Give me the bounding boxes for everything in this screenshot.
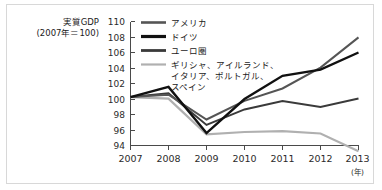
line-chart-svg: 実質GDP (2007年＝100) 110 108 106 104 102 10… <box>0 0 382 190</box>
x-tick-2013: 2013 <box>345 153 369 164</box>
legend-label-germany: ドイツ <box>171 32 198 42</box>
y-tick-110: 110 <box>108 17 125 27</box>
y-tick-108: 108 <box>108 33 125 43</box>
y-tick-106: 106 <box>108 48 125 58</box>
y-tick-96: 96 <box>114 126 126 136</box>
y-tick-94: 94 <box>114 141 126 151</box>
figure-container: 実質GDP (2007年＝100) 110 108 106 104 102 10… <box>0 0 382 190</box>
chart-legend: アメリカ ドイツ ユーロ圏 ギリシャ、アイルランド、 イタリア、ポルトガル、 ス… <box>141 18 279 92</box>
y-tick-98: 98 <box>114 110 126 120</box>
y-axis-title-line2: (2007年＝100) <box>37 28 100 38</box>
x-axis-ticks <box>131 146 359 150</box>
x-tick-2007: 2007 <box>118 153 142 164</box>
x-tick-2008: 2008 <box>156 153 180 164</box>
x-axis-unit-note: (年) <box>351 167 364 177</box>
legend-label-america: アメリカ <box>171 18 207 28</box>
legend-label-southern-europe-line2: イタリア、ポルトガル、 <box>171 71 269 81</box>
y-tick-102: 102 <box>108 79 125 89</box>
x-axis-tick-labels: 2007 2008 2009 2010 2011 2012 2013 <box>118 153 369 164</box>
y-tick-104: 104 <box>108 64 125 74</box>
y-tick-100: 100 <box>108 95 125 105</box>
y-axis-ticks <box>131 22 135 146</box>
x-tick-2012: 2012 <box>308 153 332 164</box>
chart-plot-wrapper: 実質GDP (2007年＝100) 110 108 106 104 102 10… <box>0 0 382 190</box>
legend-label-southern-europe-line1: ギリシャ、アイルランド、 <box>171 60 279 70</box>
y-axis-tick-labels: 110 108 106 104 102 100 98 96 94 <box>108 17 125 151</box>
x-tick-2011: 2011 <box>270 153 294 164</box>
y-axis-title-line1: 実質GDP <box>63 17 99 27</box>
legend-label-euro-area: ユーロ圏 <box>171 46 207 56</box>
x-tick-2010: 2010 <box>232 153 256 164</box>
legend-label-southern-europe-line3: スペイン <box>171 82 206 92</box>
x-tick-2009: 2009 <box>194 153 218 164</box>
